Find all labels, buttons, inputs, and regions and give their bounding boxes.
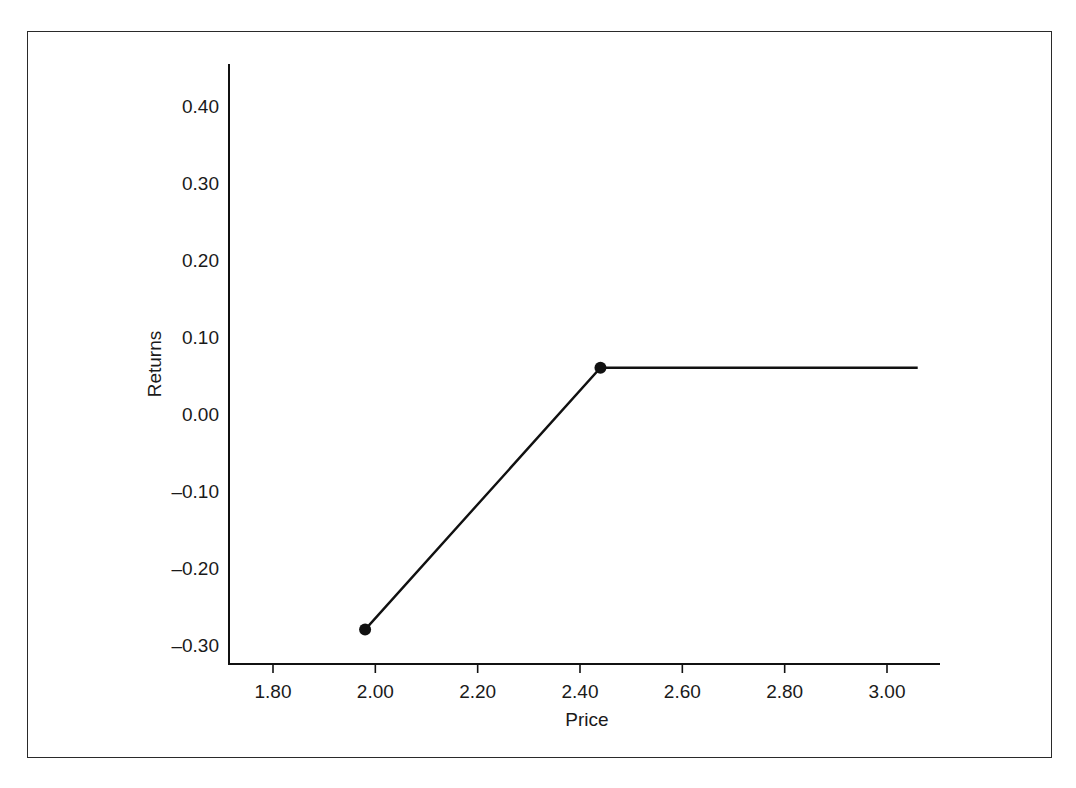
x-tick-label: 2.20 [459, 681, 496, 702]
y-tick-label: –0.30 [171, 635, 219, 656]
y-tick-label: 0.30 [182, 173, 219, 194]
axes [228, 64, 940, 665]
y-tick-label: 0.20 [182, 250, 219, 271]
x-tick-label: 1.80 [255, 681, 292, 702]
data-series [359, 362, 918, 636]
x-tick-label: 2.80 [766, 681, 803, 702]
payoff-chart: 1.802.002.202.402.602.803.00 0.400.300.2… [0, 0, 1076, 788]
x-tick-label: 2.60 [664, 681, 701, 702]
y-axis-title: Returns [144, 331, 165, 398]
x-axis-title: Price [565, 709, 608, 730]
y-tick-label: –0.20 [171, 558, 219, 579]
y-tick-label: 0.40 [182, 96, 219, 117]
x-tick-label: 2.40 [562, 681, 599, 702]
x-tick-label: 3.00 [869, 681, 906, 702]
x-axis-ticks: 1.802.002.202.402.602.803.00 [255, 664, 906, 702]
y-tick-label: –0.10 [171, 481, 219, 502]
x-tick-label: 2.00 [357, 681, 394, 702]
y-tick-label: 0.10 [182, 327, 219, 348]
series-line [365, 368, 918, 630]
y-tick-label: 0.00 [182, 404, 219, 425]
data-point-marker [359, 624, 371, 636]
data-point-marker [594, 362, 606, 374]
y-axis-ticks: 0.400.300.200.100.00–0.10–0.20–0.30 [171, 96, 219, 656]
